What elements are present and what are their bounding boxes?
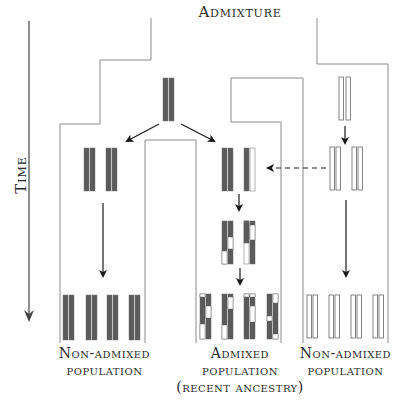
left-pop-label-line1: Non-admixed (42, 345, 167, 362)
right-pop-chromosomes-final (307, 295, 384, 338)
admixed-pop-chromosomes-final (200, 294, 278, 339)
right-pop-label-line2: population (283, 362, 408, 379)
left-pop-label-line2: population (42, 362, 167, 379)
split-arrow-right (181, 124, 214, 141)
left-pop-chromosomes-final (63, 295, 140, 340)
right-pop-label-line1: Non-admixed (283, 345, 408, 362)
time-axis-label: Time (12, 150, 30, 200)
right-pop-chromosomes-gen1 (330, 147, 363, 190)
admixed-pop-chromosomes-gen1 (222, 148, 255, 191)
left-population-label: Non-admixed population (42, 345, 167, 379)
split-arrow-left (127, 124, 159, 141)
admixture-diagram (0, 0, 410, 403)
admixed-pop-chromosomes-gen2 (222, 221, 255, 264)
right-pop-chromosome-pair-top (339, 77, 351, 120)
left-pop-chromosomes-gen1 (84, 148, 117, 191)
diagram-title: Admixture (180, 3, 300, 21)
ancestral-chromosome-pair (163, 78, 174, 121)
right-population-label: Non-admixed population (283, 345, 408, 379)
middle-pop-label-line3: (recent ancestry) (175, 379, 305, 396)
